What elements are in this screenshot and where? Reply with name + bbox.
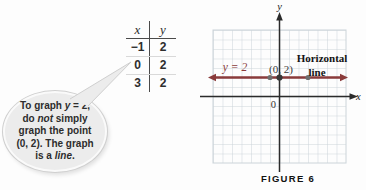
- point-0-2: [276, 74, 282, 80]
- line-equation-label: y = 2: [222, 61, 248, 74]
- table-cell-y: 2: [150, 39, 176, 56]
- point-minus1-2: [267, 75, 272, 80]
- figure-panel: x y −1 2 0 2 3 2 To graph y = 2, do not …: [0, 0, 366, 190]
- figure-caption: FIGURE 6: [256, 173, 320, 184]
- origin-label: 0: [271, 99, 276, 110]
- callout-tail-shape: [70, 62, 131, 106]
- line-annotation: line: [308, 66, 325, 78]
- callout-text-line: is a line.: [5, 150, 105, 162]
- table-header-row: x y: [126, 21, 176, 39]
- table-row: −1 2: [126, 39, 176, 56]
- horizontal-annotation: Horizontal: [297, 52, 348, 64]
- table-cell-y: 2: [150, 75, 176, 92]
- callout-text-line: do not simply: [5, 113, 105, 125]
- table-cell-y: 2: [150, 57, 176, 74]
- coordinate-graph: y x 0 y = 2 (0, 2) Horizontal line: [193, 0, 366, 190]
- callout-text-line: (0, 2). The graph: [5, 138, 105, 150]
- table-header-x: x: [126, 21, 150, 38]
- y-axis-label: y: [276, 1, 282, 12]
- y-axis-arrow-icon: [276, 12, 283, 21]
- point-coordinate-label: (0, 2): [269, 63, 293, 76]
- table-cell-x: −1: [126, 39, 150, 56]
- callout-text-line: graph the point: [5, 125, 105, 137]
- line-left-arrow-icon: [208, 74, 216, 81]
- x-axis-label: x: [355, 91, 361, 102]
- callout-tail-pointer: [55, 55, 140, 110]
- table-header-y: y: [150, 21, 176, 38]
